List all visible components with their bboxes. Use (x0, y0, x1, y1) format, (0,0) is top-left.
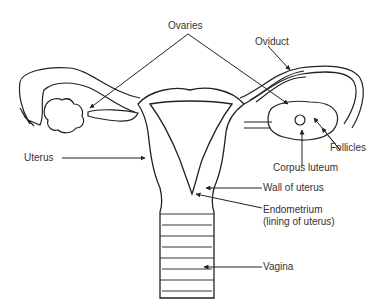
label-vagina: Vagina (263, 261, 293, 273)
label-corpus-luteum: Corpus luteum (273, 162, 338, 174)
label-ovaries: Ovaries (168, 20, 202, 32)
reproductive-system-diagram (0, 0, 383, 305)
right-ovary (244, 101, 338, 140)
label-follicles: Follicles (330, 142, 366, 154)
label-endometrium-sub: (lining of uterus) (263, 216, 335, 228)
label-uterus: Uterus (24, 152, 53, 164)
label-oviduct: Oviduct (255, 36, 289, 48)
left-ovary (44, 99, 138, 133)
label-wall-of-uterus: Wall of uterus (263, 182, 324, 194)
label-endometrium: Endometrium (263, 204, 322, 216)
